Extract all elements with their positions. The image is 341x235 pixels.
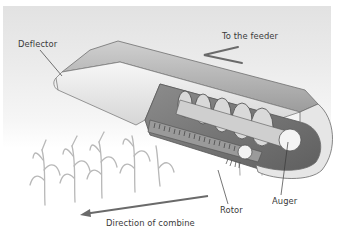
deflector-label: Deflector — [18, 38, 57, 49]
corn-plant-icon — [156, 146, 174, 186]
to-the-feeder-label: To the feeder — [222, 30, 278, 41]
direction-of-combine-label: Direction of combine — [106, 217, 195, 228]
corn-plant-icon — [60, 136, 90, 202]
header-housing — [54, 41, 333, 179]
rotor-leader-line — [218, 170, 228, 204]
corn-plant-icon — [30, 140, 60, 205]
corn-plant-icon — [120, 136, 150, 192]
auger-label: Auger — [272, 195, 297, 206]
feeder-arrow-icon — [204, 47, 242, 63]
rotor-hub — [238, 145, 252, 159]
rotor-label: Rotor — [220, 204, 243, 215]
direction-arrow-icon — [80, 196, 208, 217]
corn-plant-icon — [87, 132, 117, 198]
auger-shaft-end — [279, 129, 301, 151]
deflector-leader-line — [40, 50, 62, 76]
